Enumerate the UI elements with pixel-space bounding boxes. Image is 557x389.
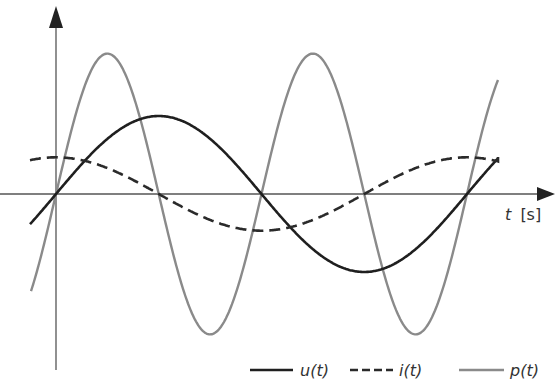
x-axis-arrow-icon <box>537 187 555 201</box>
legend-p-label: p(t) <box>509 361 539 380</box>
legend: u(t) i(t) p(t) <box>250 361 539 380</box>
ac-power-diagram: t [s] u(t) i(t) p(t) <box>0 0 557 389</box>
y-axis-arrow-icon <box>49 6 63 28</box>
legend-i-label: i(t) <box>399 361 422 380</box>
legend-u-label: u(t) <box>300 361 329 380</box>
i-curve <box>30 155 498 231</box>
x-axis-label: t [s] <box>505 205 541 224</box>
